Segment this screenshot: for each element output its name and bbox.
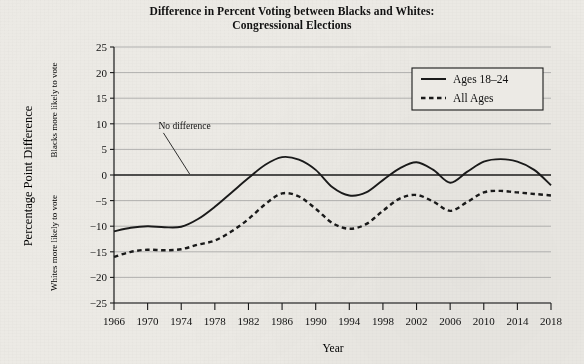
y-axis-tick-label: −5 [95,195,107,207]
legend-label: All Ages [453,92,494,105]
y-axis-tick-label: −15 [90,246,108,258]
x-axis-tick-label: 1998 [372,315,395,327]
annotation-group: No difference [158,121,210,174]
x-axis-tick-label: 1990 [305,315,328,327]
x-axis-tick-label: 1982 [237,315,259,327]
y-axis-tick-label: 25 [96,41,108,53]
y-axis-tick-label: 20 [96,67,108,79]
y-axis-title: Percentage Point Difference [21,105,35,246]
x-axis-tick-label: 2010 [473,315,496,327]
y-axis-tick-label: 0 [102,169,108,181]
x-axis-tick-label: 1978 [204,315,227,327]
x-axis-tick-label: 1994 [338,315,361,327]
y-axis-tick-label: −20 [90,271,108,283]
x-axis-tick-label: 2006 [439,315,462,327]
annotation-label: No difference [158,121,210,131]
y-axis-tick-label: 5 [102,143,108,155]
data-series-group [114,157,551,257]
x-axis: 1966197019741978198219861990199419982002… [103,303,563,327]
y-axis: 2520151050−5−10−15−20−25 [90,41,114,309]
x-axis-title: Year [322,342,343,354]
legend-label: Ages 18–24 [453,73,509,86]
x-axis-tick-label: 2002 [406,315,428,327]
x-axis-tick-label: 2018 [540,315,563,327]
y-axis-tick-label: 10 [96,118,108,130]
y-axis-tick-label: 15 [96,92,108,104]
y-axis-upper-label: Blacks more likely to vote [49,63,59,158]
x-axis-tick-label: 2014 [506,315,529,327]
y-axis-lower-label: Whites more likely to vote [49,195,59,291]
y-axis-tick-label: −25 [90,297,108,309]
series-line [114,157,551,232]
x-axis-tick-label: 1970 [137,315,160,327]
x-axis-tick-label: 1974 [170,315,193,327]
annotation-leader-line [163,133,189,174]
x-axis-tick-label: 1966 [103,315,126,327]
x-axis-tick-label: 1986 [271,315,294,327]
chart-legend[interactable]: Ages 18–24All Ages [412,68,543,110]
y-axis-tick-label: −10 [90,220,108,232]
chart-figure: 2520151050−5−10−15−20−25 196619701974197… [0,0,584,364]
